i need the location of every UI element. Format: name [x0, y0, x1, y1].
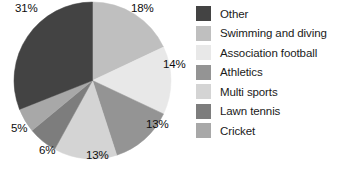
legend-item-label: Lawn tennis	[220, 105, 280, 117]
legend-color-swatch-icon	[196, 26, 211, 41]
legend-item-label: Cricket	[220, 125, 255, 137]
legend-color-swatch-icon	[196, 104, 211, 119]
pie-slice-value-label: 18%	[131, 2, 153, 14]
legend-item-label: Multi sports	[220, 86, 278, 98]
legend-item-label: Association football	[220, 47, 317, 59]
legend-item[interactable]: Association football	[196, 43, 340, 63]
legend-color-swatch-icon	[196, 123, 211, 138]
pie-chart-plot-area: 18%14%13%13%6%5%31%	[0, 0, 196, 171]
legend-item[interactable]: Multi sports	[196, 82, 340, 102]
pie-chart-svg	[0, 0, 196, 171]
pie-slice-value-label: 13%	[86, 149, 108, 161]
legend-item[interactable]: Lawn tennis	[196, 102, 340, 122]
pie-slice-group	[14, 2, 171, 159]
legend-color-swatch-icon	[196, 6, 211, 21]
pie-slice-value-label: 13%	[146, 118, 168, 130]
legend-item-label: Other	[220, 8, 248, 20]
chart-legend: OtherSwimming and divingAssociation foot…	[196, 4, 340, 141]
pie-slice-value-label: 5%	[11, 122, 27, 134]
legend-item[interactable]: Swimming and diving	[196, 24, 340, 44]
pie-slice-value-label: 31%	[15, 2, 37, 14]
legend-color-swatch-icon	[196, 65, 211, 80]
legend-item[interactable]: Cricket	[196, 121, 340, 141]
legend-item[interactable]: Other	[196, 4, 340, 24]
legend-color-swatch-icon	[196, 84, 211, 99]
legend-item[interactable]: Athletics	[196, 63, 340, 83]
legend-item-label: Swimming and diving	[220, 27, 327, 39]
legend-color-swatch-icon	[196, 45, 211, 60]
pie-slice-value-label: 14%	[163, 58, 185, 70]
pie-slice-value-label: 6%	[39, 144, 55, 156]
legend-item-label: Athletics	[220, 66, 263, 78]
pie-chart-figure: 18%14%13%13%6%5%31% OtherSwimming and di…	[0, 0, 340, 171]
